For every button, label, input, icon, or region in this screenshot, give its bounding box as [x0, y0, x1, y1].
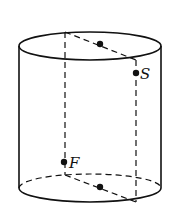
point-F	[61, 159, 67, 165]
bottom-front-arc	[19, 188, 161, 202]
point-S	[133, 70, 139, 76]
bottom-center-point	[97, 184, 103, 190]
top-center-point	[97, 41, 103, 47]
bottom-back-arc	[19, 174, 161, 188]
label-F: F	[68, 154, 80, 172]
cylinder-diagram: S F	[0, 0, 175, 207]
top-ellipse	[19, 32, 161, 60]
label-S: S	[140, 65, 150, 83]
